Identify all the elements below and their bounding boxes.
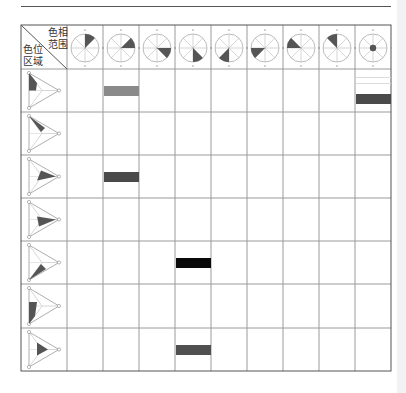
match-bar <box>356 94 391 104</box>
triangle-vertex-icon <box>27 192 30 195</box>
triangle-vertex-icon <box>27 235 30 238</box>
wheel-spoke <box>301 48 311 58</box>
faint-line <box>356 83 391 84</box>
triangle-vertex-icon <box>27 157 30 160</box>
triangle-vertex-icon <box>57 175 60 178</box>
wheel-tick <box>120 29 122 31</box>
hue-range-wedge-icon <box>219 48 229 62</box>
wheel-spoke <box>193 38 203 48</box>
wheel-spoke <box>327 48 337 58</box>
wheel-tick <box>120 65 122 67</box>
triangle-vertex-icon <box>57 261 60 264</box>
wheel-tick <box>156 65 158 67</box>
wheel-tick <box>102 47 104 49</box>
wheel-spoke <box>183 48 193 58</box>
wheel-tick <box>372 65 374 67</box>
triangle-vertex-icon <box>27 330 30 333</box>
hue-center-dot-icon <box>370 45 376 51</box>
match-bar <box>104 172 139 182</box>
triangle-vertex-icon <box>27 149 30 152</box>
faint-line <box>356 77 391 78</box>
corner-label-position-region: 色位 区域 <box>23 44 43 68</box>
hue-range-wedge-icon <box>157 48 171 58</box>
wheel-tick <box>264 65 266 67</box>
wheel-spoke <box>337 38 347 48</box>
wheel-tick <box>300 29 302 31</box>
wheel-spoke <box>255 38 265 48</box>
wheel-tick <box>372 29 374 31</box>
triangle-vertex-icon <box>27 106 30 109</box>
triangle-vertex-icon <box>27 243 30 246</box>
match-bar <box>176 258 211 268</box>
wheel-spoke <box>147 48 157 58</box>
wheel-tick <box>390 47 392 49</box>
wheel-spoke <box>337 48 347 58</box>
corner-label-hue-range: 色相 范围 <box>48 27 68 51</box>
wheel-spoke <box>75 38 85 48</box>
position-region-highlight-icon <box>37 171 56 181</box>
wheel-spoke <box>229 38 239 48</box>
wheel-spoke <box>75 48 85 58</box>
wheel-tick <box>264 29 266 31</box>
wheel-spoke <box>111 48 121 58</box>
wheel-tick <box>336 65 338 67</box>
wheel-tick <box>84 65 86 67</box>
triangle-median <box>29 202 42 220</box>
match-bar <box>104 86 139 96</box>
triangle-median <box>29 91 42 109</box>
label-position: 色位 <box>23 44 43 56</box>
wheel-tick <box>210 47 212 49</box>
match-bar <box>176 345 211 355</box>
wheel-spoke <box>183 38 193 48</box>
wheel-tick <box>282 47 284 49</box>
triangle-vertex-icon <box>27 365 30 368</box>
hue-range-wedge-icon <box>287 38 301 48</box>
wheel-spoke <box>291 48 301 58</box>
wheel-spoke <box>85 48 95 58</box>
triangle-vertex-icon <box>57 348 60 351</box>
wheel-spoke <box>111 38 121 48</box>
triangle-median <box>29 134 42 152</box>
wheel-tick <box>354 47 356 49</box>
hue-range-wedge-icon <box>251 48 265 58</box>
triangle-vertex-icon <box>57 132 60 135</box>
wheel-tick <box>336 29 338 31</box>
wheel-spoke <box>301 38 311 48</box>
wheel-tick <box>318 47 320 49</box>
hue-position-matrix <box>0 0 406 393</box>
wheel-tick <box>228 65 230 67</box>
wheel-spoke <box>229 48 239 58</box>
triangle-vertex-icon <box>57 218 60 221</box>
hue-range-wedge-icon <box>121 38 135 48</box>
label-range: 范围 <box>48 39 68 51</box>
wheel-tick <box>192 65 194 67</box>
position-region-highlight-icon <box>37 217 56 227</box>
hue-range-wedge-icon <box>327 34 337 48</box>
label-region: 区域 <box>23 56 43 68</box>
wheel-tick <box>300 65 302 67</box>
wheel-spoke <box>265 38 275 48</box>
triangle-vertex-icon <box>57 89 60 92</box>
wheel-tick <box>138 47 140 49</box>
wheel-tick <box>228 29 230 31</box>
wheel-tick <box>84 29 86 31</box>
triangle-vertex-icon <box>27 286 30 289</box>
wheel-tick <box>156 29 158 31</box>
position-region-highlight-icon <box>29 302 37 324</box>
position-region-highlight-icon <box>37 343 48 356</box>
hue-range-wedge-icon <box>85 34 95 48</box>
triangle-median <box>29 245 42 263</box>
wheel-spoke <box>121 48 131 58</box>
triangle-vertex-icon <box>57 304 60 307</box>
wheel-spoke <box>219 38 229 48</box>
wheel-spoke <box>147 38 157 48</box>
wheel-spoke <box>157 38 167 48</box>
label-hue: 色相 <box>48 27 68 39</box>
wheel-tick <box>246 47 248 49</box>
wheel-tick <box>174 47 176 49</box>
hue-range-wedge-icon <box>193 48 203 62</box>
wheel-spoke <box>265 48 275 58</box>
triangle-vertex-icon <box>27 200 30 203</box>
wheel-tick <box>192 29 194 31</box>
